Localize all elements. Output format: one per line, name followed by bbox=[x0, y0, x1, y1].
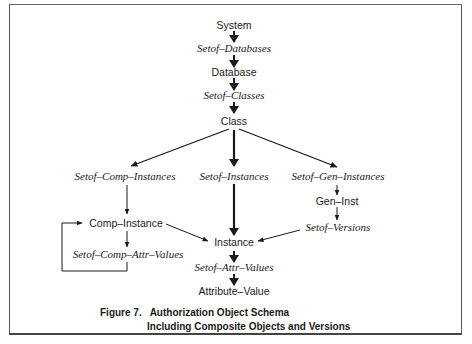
edge-class-setof-comp-instances bbox=[131, 129, 229, 166]
node-comp-instance: Comp–Instance bbox=[89, 218, 163, 229]
node-setof-instances: Setof–Instances bbox=[199, 171, 268, 182]
node-gen-inst: Gen–Inst bbox=[316, 196, 359, 207]
figure-caption-line-1: Figure 7. Authorization Object Schema bbox=[100, 308, 289, 318]
node-instance: Instance bbox=[214, 237, 254, 248]
edge-comp-instance-instance bbox=[166, 224, 208, 241]
node-attribute-value: Attribute–Value bbox=[198, 286, 269, 297]
edge-class-setof-gen-instances bbox=[239, 129, 337, 167]
node-setof-comp-instances: Setof–Comp–Instances bbox=[75, 171, 176, 182]
node-class: Class bbox=[221, 116, 247, 127]
node-setof-databases: Setof–Databases bbox=[197, 43, 271, 54]
figure-caption-line-2: Including Composite Objects and Versions bbox=[147, 322, 350, 332]
node-setof-attr-values: Setof–Attr–Values bbox=[195, 262, 274, 273]
node-database: Database bbox=[212, 67, 257, 78]
node-setof-gen-instances: Setof–Gen–Instances bbox=[292, 171, 385, 182]
node-setof-versions: Setof–Versions bbox=[306, 222, 371, 233]
edge-setof-versions-instance bbox=[258, 230, 300, 241]
node-system: System bbox=[216, 20, 251, 31]
node-setof-comp-attr-values: Setof–Comp–Attr–Values bbox=[73, 249, 184, 260]
node-setof-classes: Setof–Classes bbox=[203, 90, 264, 101]
edge-loop-setof-comp-attr-values-comp-instance bbox=[62, 223, 127, 271]
